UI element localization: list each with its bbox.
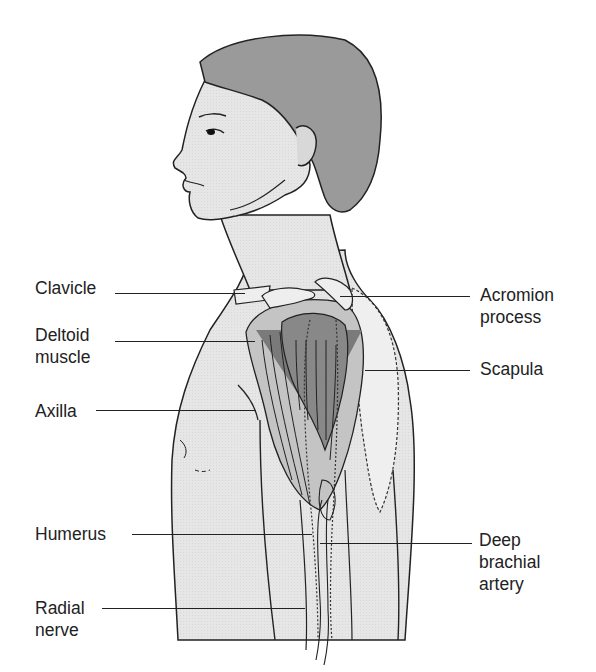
- label-axilla: Axilla: [35, 400, 77, 422]
- anatomy-figure: Clavicle Deltoid muscle Axilla Humerus R…: [0, 0, 596, 672]
- label-scapula: Scapula: [480, 358, 543, 380]
- leader-axilla: [96, 410, 256, 411]
- label-humerus: Humerus: [35, 523, 106, 545]
- leader-scapula: [365, 370, 470, 371]
- label-acromion-process: Acromion process: [480, 284, 554, 328]
- leader-humerus: [132, 534, 312, 535]
- label-deep-brachial-artery: Deep brachial artery: [479, 529, 540, 595]
- leader-acromion: [340, 296, 470, 297]
- label-deltoid-muscle: Deltoid muscle: [35, 324, 90, 368]
- leader-clavicle: [115, 293, 245, 294]
- leader-deep-brachial: [320, 543, 472, 544]
- label-radial-nerve: Radial nerve: [35, 597, 85, 641]
- leader-deltoid: [115, 341, 255, 342]
- leader-radial-nerve: [102, 608, 305, 609]
- label-clavicle: Clavicle: [35, 277, 96, 299]
